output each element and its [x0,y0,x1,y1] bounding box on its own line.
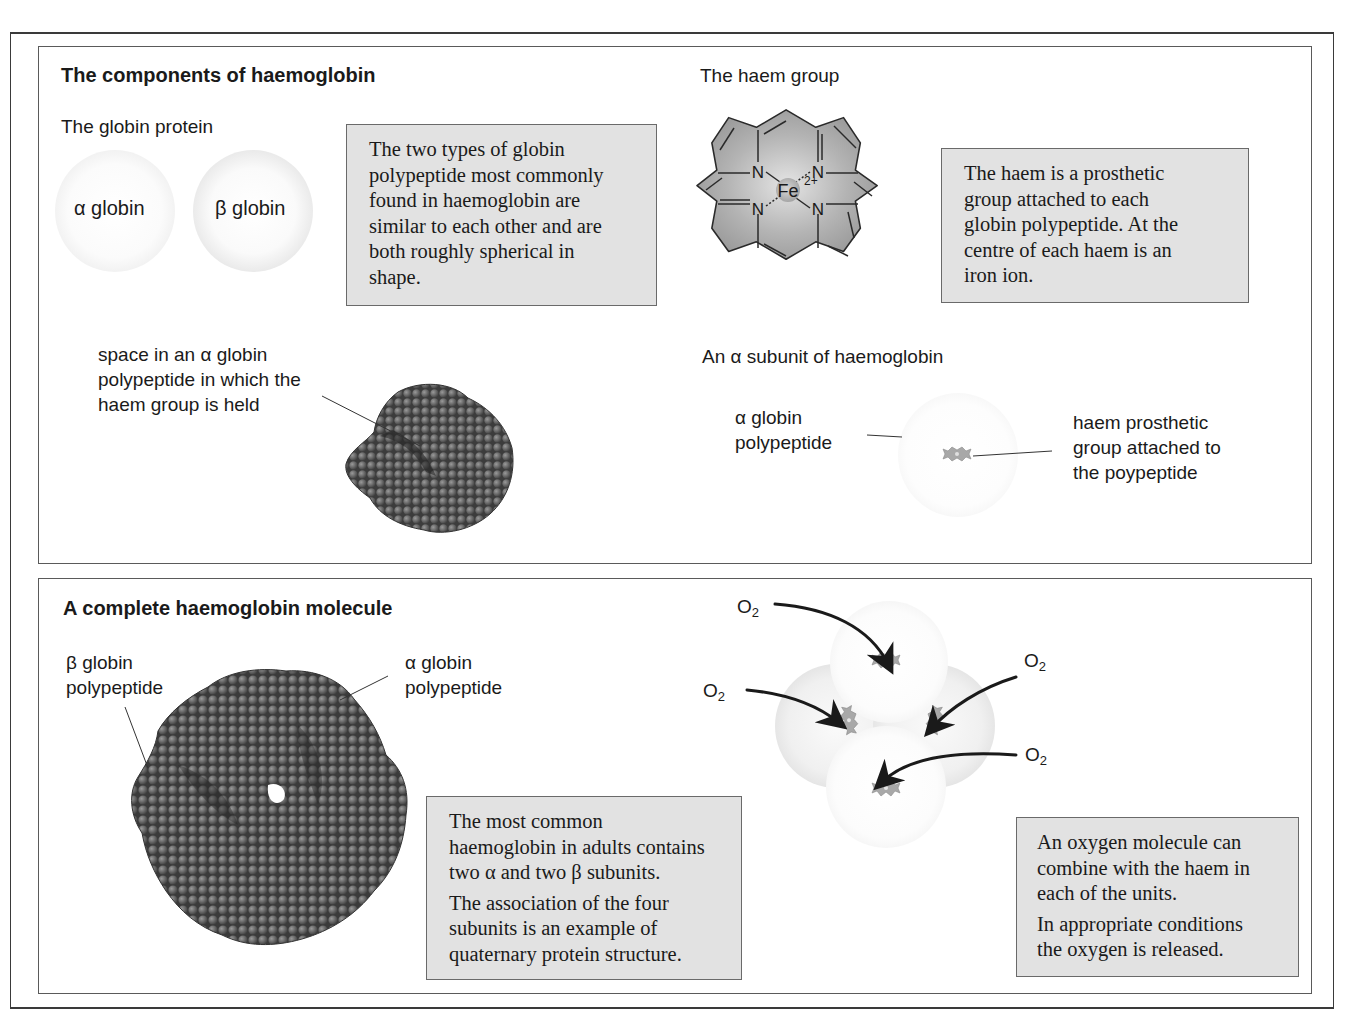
oxygen-note-text-2: In appropriate conditions the oxygen is … [1037,912,1278,963]
oxygen-label-left: O2 [703,680,725,704]
oxygen-binding-note: An oxygen molecule can combine with the … [1016,817,1299,977]
oxygen-label-right-upper: O2 [1024,650,1046,674]
oxygen-label-right-lower: O2 [1025,744,1047,768]
oxygen-note-text-1: An oxygen molecule can combine with the … [1037,830,1278,907]
oxygen-label-top-left: O2 [737,596,759,620]
